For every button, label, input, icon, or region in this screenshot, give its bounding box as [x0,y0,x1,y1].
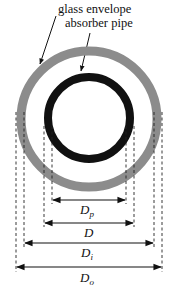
glass-envelope-ring [21,51,157,187]
receiver-cross-section-diagram: glass envelope absorber pipe Dp D Di Do [0,0,172,289]
glass-envelope-label: glass envelope [58,2,132,16]
absorber-pipe-ring [48,77,130,159]
dim-label-dp: Dp [79,202,94,219]
dim-label-d: D [83,225,94,240]
dim-label-do: Do [79,270,94,287]
absorber-pipe-label: absorber pipe [65,16,133,30]
dim-label-di: Di [80,245,93,262]
